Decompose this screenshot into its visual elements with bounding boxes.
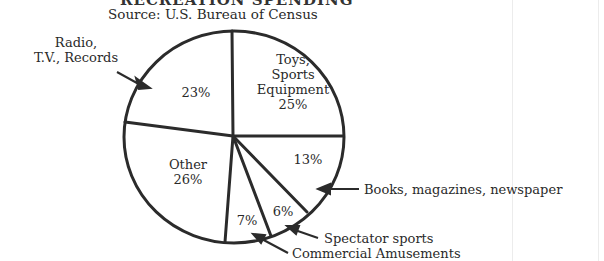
pct-books: 13% xyxy=(290,152,326,167)
arrowhead-icon xyxy=(318,184,330,194)
label-other: Other 26% xyxy=(160,157,216,187)
pct-spectator: 6% xyxy=(268,204,298,219)
label-radio: Radio, T.V., Records xyxy=(16,35,136,65)
label-toys: Toys, Sports Equipment 25% xyxy=(248,52,338,112)
pct-commercial: 7% xyxy=(232,213,262,228)
divider-top xyxy=(232,31,233,136)
divider-other-radio xyxy=(125,122,233,136)
divider-books-spectator xyxy=(233,136,307,212)
pct-radio: 23% xyxy=(178,85,214,100)
label-books: Books, magazines, newspaper xyxy=(364,182,562,197)
label-commercial: Commercial Amusements xyxy=(292,246,461,261)
label-spectator: Spectator sports xyxy=(324,231,434,246)
